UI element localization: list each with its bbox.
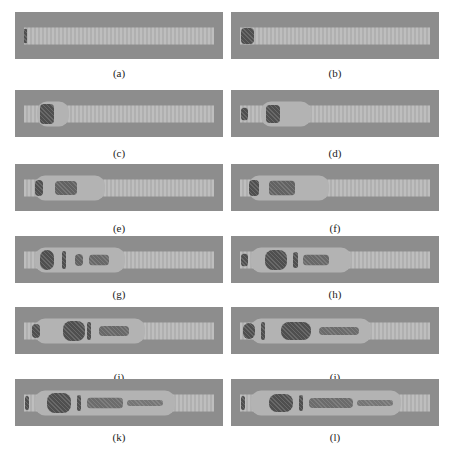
panel-f: (f) xyxy=(231,164,439,211)
rear-structure xyxy=(241,253,248,266)
jet-column xyxy=(240,27,430,44)
rear-structure xyxy=(32,324,40,338)
front-structure xyxy=(241,28,254,44)
front-structure xyxy=(40,104,54,124)
panel-k: (k) xyxy=(15,379,223,426)
simulation-frame xyxy=(231,12,439,59)
jet-column xyxy=(24,27,214,44)
panel-c: (c) xyxy=(15,90,223,137)
front-structure xyxy=(127,400,163,406)
rear-structure xyxy=(35,180,43,196)
simulation-frame xyxy=(15,307,223,354)
vortex-ring xyxy=(265,250,287,270)
panel-h: (h) xyxy=(231,236,439,283)
panel-b: (b) xyxy=(231,12,439,59)
vortex-arc xyxy=(87,322,91,340)
jet-structure xyxy=(75,254,83,266)
rear-structure xyxy=(25,396,29,410)
panel-e: (e) xyxy=(15,164,223,211)
panel-g: (g) xyxy=(15,236,223,283)
panel-label: (h) xyxy=(231,288,439,300)
panel-label: (c) xyxy=(15,147,223,159)
simulation-frame xyxy=(231,236,439,283)
vortex-ring xyxy=(281,322,311,340)
rear-structure xyxy=(243,323,255,339)
front-structure xyxy=(357,400,393,406)
vortex-arc xyxy=(62,251,66,269)
vortex-arc xyxy=(261,322,265,340)
vortex-ring xyxy=(47,393,71,413)
simulation-frame xyxy=(231,90,439,137)
front-structure xyxy=(99,326,129,336)
vortex-ring xyxy=(63,321,85,341)
vortex-arc xyxy=(77,395,81,411)
simulation-frame xyxy=(231,307,439,354)
simulation-frame xyxy=(231,164,439,211)
jet-structure xyxy=(309,398,353,408)
panel-label: (d) xyxy=(231,147,439,159)
panel-j: (j) xyxy=(231,307,439,354)
panel-d: (d) xyxy=(231,90,439,137)
front-structure xyxy=(303,254,329,265)
vortex-ring xyxy=(269,394,293,412)
simulation-frame xyxy=(15,379,223,426)
panel-label: (k) xyxy=(15,431,223,443)
panel-a: (a) xyxy=(15,12,223,59)
simulation-frame xyxy=(231,379,439,426)
simulation-frame xyxy=(15,90,223,137)
front-structure xyxy=(89,254,109,265)
simulation-frame xyxy=(15,164,223,211)
panel-label: (a) xyxy=(15,67,223,79)
front-structure xyxy=(55,181,77,195)
rear-structure xyxy=(249,180,259,196)
vortex-ring xyxy=(40,250,54,270)
vortex-arc xyxy=(293,252,298,268)
rear-structure xyxy=(241,107,248,120)
front-structure xyxy=(269,180,295,195)
panel-i: (i) xyxy=(15,307,223,354)
panel-label: (l) xyxy=(231,431,439,443)
panel-label: (e) xyxy=(15,222,223,234)
front-structure xyxy=(24,28,27,43)
panel-l: (l) xyxy=(231,379,439,426)
front-structure xyxy=(319,327,359,335)
panel-label: (f) xyxy=(231,222,439,234)
jet-structure xyxy=(87,397,123,408)
simulation-frame xyxy=(15,236,223,283)
panel-label: (g) xyxy=(15,288,223,300)
panel-label: (b) xyxy=(231,67,439,79)
simulation-frame xyxy=(15,12,223,59)
rear-structure xyxy=(241,396,245,410)
front-structure xyxy=(266,105,280,123)
vortex-arc xyxy=(299,395,303,411)
